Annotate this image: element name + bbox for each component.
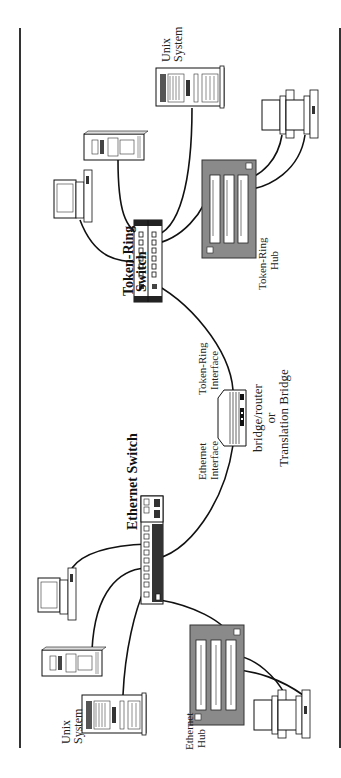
token-ring-hub: [202, 160, 256, 258]
mini-tower-bottom: [42, 647, 106, 676]
workstations-ethernet: [254, 690, 310, 738]
cables: [72, 108, 305, 695]
ethernet-switch-label: Ethernet Switch: [125, 433, 140, 530]
token-ring-hub-label-1: Token-Ring: [256, 237, 268, 290]
ethernet-hub-label-2: Hub: [195, 729, 207, 748]
ethernet-hub-label-1: Ethernet: [183, 713, 195, 750]
unix-top-label-2: System: [171, 26, 185, 62]
workstations-token-ring: [262, 90, 318, 138]
ethernet-interface-label-1: Ethernet: [196, 443, 208, 480]
bridge-label-3: Translation Bridge: [276, 369, 291, 467]
cable-tr-switch-unix: [153, 108, 192, 236]
ethernet-hub: [190, 625, 244, 725]
workstation-bottom-left: [38, 568, 76, 620]
mini-tower-top: [84, 131, 148, 160]
token-ring-interface-label-2: Interface: [208, 351, 220, 390]
token-ring-hub-label-2: Hub: [268, 251, 280, 270]
ethernet-interface-label-2: Interface: [208, 441, 220, 480]
cable-eth-switch-workstation: [72, 544, 148, 568]
ethernet-switch: [141, 496, 163, 604]
token-ring-interface-label-1: Token-Ring: [196, 342, 208, 395]
token-ring-switch-label-2: Switch: [134, 251, 149, 292]
bridge-router: [218, 390, 246, 446]
workstation-top-left: [54, 170, 92, 222]
network-diagram: Unix System Token-Ring Switch Token-Ring…: [0, 0, 341, 778]
unix-system-top: [156, 66, 224, 108]
unix-bottom-label-2: System: [71, 708, 85, 744]
unix-system-bottom: [82, 693, 146, 735]
